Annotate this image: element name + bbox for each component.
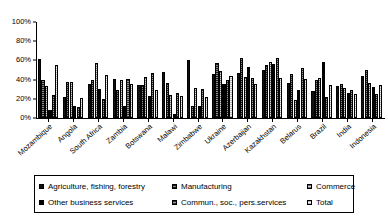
bar [80,98,83,118]
x-axis-label-cell: Botswana [135,120,160,166]
bar-group [185,22,210,118]
bar-group [210,22,235,118]
legend-item[interactable]: Agriculture, fishing, forestry [39,182,172,191]
bar [155,90,158,118]
bar-group [359,22,384,118]
legend-swatch-icon [172,200,177,205]
legend-label: Commun., soc., pers.services [181,198,286,207]
x-axis-label-cell: South Africa [86,120,111,166]
legend-label: Manufacturing [181,182,232,191]
legend-item[interactable]: Commun., soc., pers.services [172,198,307,207]
bar [205,97,208,118]
x-axis-label-cell: Belarus [285,120,310,166]
legend-item[interactable]: Other business services [39,198,172,207]
bar-group [285,22,310,118]
x-axis-line [36,118,385,119]
plot-area: 0%20%40%60%80%100% [36,22,384,118]
bar [180,96,183,118]
x-axis-category-label: Mozambique [17,122,55,157]
bar [304,79,307,118]
bar [354,94,357,118]
bar [279,78,282,118]
legend-item[interactable]: Manufacturing [172,182,307,191]
x-axis-label-cell: Brazil [309,120,334,166]
x-axis-label-cell: Indonesia [359,120,384,166]
bar-chart: 0%20%40%60%80%100% MozambiqueAngolaSouth… [0,0,388,220]
bar [105,75,108,118]
x-axis-label-cell: Mozambique [36,120,61,166]
bar-group [111,22,136,118]
bar-group [86,22,111,118]
bar-group [260,22,285,118]
legend-item[interactable]: Commerce [307,182,355,191]
legend-label: Commerce [316,182,355,191]
legend-swatch-icon [39,184,44,189]
x-axis-labels: MozambiqueAngolaSouth AfricaZambiaBotswa… [36,120,384,166]
legend-label: Other business services [48,198,133,207]
chart-legend: Agriculture, fishing, forestryManufactur… [34,175,354,213]
legend-swatch-icon [307,184,312,189]
legend-label: Total [316,198,333,207]
bar [379,85,382,118]
legend-swatch-icon [39,200,44,205]
bar [254,84,257,118]
bar-group [61,22,86,118]
legend-swatch-icon [172,184,177,189]
bar-group [135,22,160,118]
x-axis-category-label: Brazil [308,122,328,141]
bar [329,85,332,118]
bar-group [334,22,359,118]
x-axis-category-label: India [335,122,353,140]
bar [55,65,58,118]
bar-group [309,22,334,118]
bar-group [235,22,260,118]
bar [130,84,133,118]
legend-swatch-icon [307,200,312,205]
bar [229,76,232,118]
bar-groups [36,22,384,118]
bar-group [160,22,185,118]
bar-group [36,22,61,118]
legend-label: Agriculture, fishing, forestry [48,182,145,191]
legend-item[interactable]: Total [307,198,355,207]
